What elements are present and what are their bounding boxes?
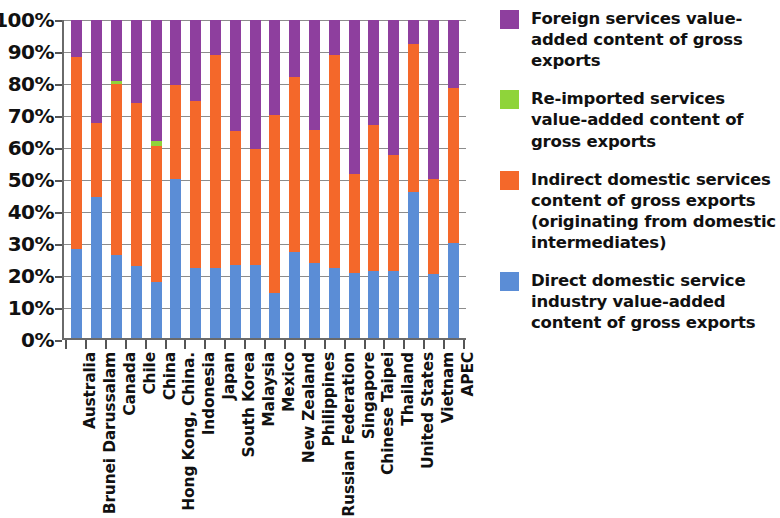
bar-segment[interactable] <box>349 20 360 174</box>
bar-segment[interactable] <box>309 130 320 264</box>
stacked-bar[interactable] <box>329 20 340 338</box>
stacked-bar[interactable] <box>250 20 261 338</box>
stacked-bar[interactable] <box>91 20 102 338</box>
bar-segment[interactable] <box>428 20 439 179</box>
bar-segment[interactable] <box>269 293 280 338</box>
stacked-bar[interactable] <box>190 20 201 338</box>
legend-item[interactable]: Indirect domestic services content of gr… <box>500 169 776 253</box>
bar-segment[interactable] <box>91 123 102 196</box>
bar-segment[interactable] <box>91 197 102 339</box>
stacked-bar[interactable] <box>170 20 181 338</box>
bar-segment[interactable] <box>428 274 439 338</box>
bar-segment[interactable] <box>349 174 360 273</box>
bar-segment[interactable] <box>329 20 340 55</box>
bar-segment[interactable] <box>230 131 241 265</box>
bar-segment[interactable] <box>408 44 419 192</box>
bar-segment[interactable] <box>170 179 181 338</box>
bar-segment[interactable] <box>131 20 142 103</box>
bar-group[interactable] <box>265 20 285 338</box>
bar-segment[interactable] <box>289 77 300 252</box>
bar-segment[interactable] <box>111 20 122 81</box>
bar-segment[interactable] <box>190 20 201 101</box>
bar-segment[interactable] <box>210 55 221 268</box>
bar-segment[interactable] <box>131 103 142 267</box>
bar-segment[interactable] <box>170 85 181 179</box>
bar-segment[interactable] <box>210 20 221 55</box>
bar-segment[interactable] <box>71 57 82 249</box>
bar-segment[interactable] <box>269 115 280 293</box>
bar-segment[interactable] <box>329 55 340 268</box>
bar-group[interactable] <box>404 20 424 338</box>
legend-item[interactable]: Direct domestic service industry value-a… <box>500 270 776 333</box>
stacked-bar[interactable] <box>111 20 122 338</box>
bar-segment[interactable] <box>368 20 379 125</box>
bar-segment[interactable] <box>71 249 82 338</box>
bar-group[interactable] <box>107 20 127 338</box>
bar-group[interactable] <box>67 20 87 338</box>
bar-segment[interactable] <box>71 20 82 57</box>
bar-group[interactable] <box>324 20 344 338</box>
bar-segment[interactable] <box>448 88 459 242</box>
stacked-bar[interactable] <box>428 20 439 338</box>
stacked-bar[interactable] <box>448 20 459 338</box>
bar-segment[interactable] <box>91 20 102 123</box>
bar-segment[interactable] <box>368 125 379 271</box>
bar-segment[interactable] <box>408 192 419 338</box>
bar-segment[interactable] <box>250 20 261 149</box>
stacked-bar[interactable] <box>269 20 280 338</box>
bar-segment[interactable] <box>309 20 320 130</box>
bar-group[interactable] <box>285 20 305 338</box>
stacked-bar[interactable] <box>349 20 360 338</box>
bar-segment[interactable] <box>448 243 459 338</box>
bar-segment[interactable] <box>289 252 300 338</box>
bar-group[interactable] <box>186 20 206 338</box>
stacked-bar[interactable] <box>309 20 320 338</box>
bar-group[interactable] <box>245 20 265 338</box>
bar-segment[interactable] <box>428 179 439 274</box>
bar-segment[interactable] <box>151 282 162 338</box>
bar-segment[interactable] <box>151 20 162 141</box>
legend-item[interactable]: Foreign services value-added content of … <box>500 8 776 71</box>
bar-group[interactable] <box>364 20 384 338</box>
stacked-bar[interactable] <box>289 20 300 338</box>
stacked-bar[interactable] <box>230 20 241 338</box>
bar-segment[interactable] <box>190 268 201 338</box>
bar-group[interactable] <box>423 20 443 338</box>
stacked-bar[interactable] <box>388 20 399 338</box>
bar-group[interactable] <box>166 20 186 338</box>
bar-segment[interactable] <box>309 263 320 338</box>
stacked-bar[interactable] <box>71 20 82 338</box>
bar-segment[interactable] <box>250 265 261 338</box>
bar-segment[interactable] <box>388 155 399 271</box>
bar-group[interactable] <box>384 20 404 338</box>
stacked-bar[interactable] <box>408 20 419 338</box>
bar-segment[interactable] <box>250 149 261 265</box>
bar-group[interactable] <box>206 20 226 338</box>
bar-group[interactable] <box>305 20 325 338</box>
bar-segment[interactable] <box>448 20 459 88</box>
bar-segment[interactable] <box>349 273 360 338</box>
stacked-bar[interactable] <box>131 20 142 338</box>
bar-segment[interactable] <box>131 266 142 338</box>
bar-segment[interactable] <box>230 20 241 131</box>
bar-segment[interactable] <box>368 271 379 338</box>
bar-segment[interactable] <box>388 20 399 155</box>
bar-group[interactable] <box>126 20 146 338</box>
bar-group[interactable] <box>344 20 364 338</box>
bar-segment[interactable] <box>151 146 162 283</box>
bar-segment[interactable] <box>269 20 280 115</box>
bar-segment[interactable] <box>230 265 241 338</box>
bar-segment[interactable] <box>190 101 201 268</box>
bar-segment[interactable] <box>408 20 419 44</box>
bar-segment[interactable] <box>111 84 122 256</box>
bar-segment[interactable] <box>289 20 300 77</box>
legend-item[interactable]: Re-imported services value-added content… <box>500 88 776 151</box>
bar-segment[interactable] <box>210 268 221 338</box>
bar-segment[interactable] <box>111 255 122 338</box>
bar-segment[interactable] <box>329 268 340 338</box>
bar-group[interactable] <box>87 20 107 338</box>
stacked-bar[interactable] <box>210 20 221 338</box>
bar-segment[interactable] <box>170 20 181 85</box>
bar-group[interactable] <box>443 20 463 338</box>
bar-group[interactable] <box>146 20 166 338</box>
